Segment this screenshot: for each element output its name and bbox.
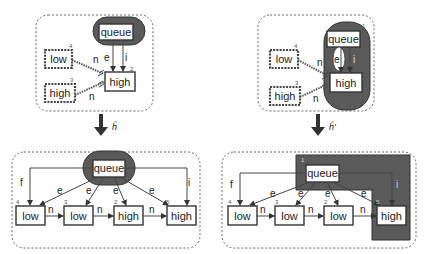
node-label: high — [118, 210, 139, 222]
node-label: low — [234, 210, 251, 222]
node-num: 3 — [275, 199, 279, 205]
edge-n-label: n — [360, 204, 366, 215]
transform-arrow-left: ĥ — [94, 114, 117, 136]
queue-num: 1 — [362, 23, 366, 29]
panel-top-right: queue 1 e i high low 4 high 3 n n — [258, 15, 374, 111]
edge-i-label: i — [396, 179, 398, 190]
node-num: 4 — [16, 199, 20, 205]
panel-bottom-left: queue 1 f i e e e e low 4 low 3 high 2 h… — [12, 151, 200, 248]
node-label: high — [171, 210, 192, 222]
edge-e-label: e — [298, 188, 304, 199]
queue-label: queue — [101, 26, 132, 38]
panel-bottom-right: queue 1 f i e e e e low 4 low 3 low 2 hi… — [222, 152, 416, 248]
node-label: low — [281, 210, 298, 222]
edge-e-4 — [120, 177, 168, 205]
transform-label-left: ĥ — [112, 121, 117, 132]
transform-arrow-right: ĥ' — [311, 114, 336, 136]
high-pattern-num: 3 — [295, 80, 299, 86]
edge-i-label: i — [188, 177, 190, 188]
node-label: low — [22, 210, 39, 222]
arrow-down-icon — [94, 127, 108, 136]
transform-label-right: ĥ' — [329, 121, 336, 132]
edge-f-label: f — [230, 179, 233, 190]
panel-top-left: queue 1 e i high 2 low 4 high 3 n n — [36, 15, 153, 111]
node-num: 2 — [324, 199, 328, 205]
edge-i-label: i — [353, 54, 355, 65]
node-num: 5 — [166, 199, 170, 205]
high-pattern-num: 3 — [70, 77, 74, 83]
edge-e-label: e — [361, 188, 367, 199]
edge-e-label: e — [270, 188, 276, 199]
high-num: 2 — [130, 66, 134, 72]
arrow-shaft — [316, 114, 320, 128]
edge-n2-label: n — [89, 91, 95, 102]
high-pattern-label: high — [275, 90, 296, 102]
edge-e-label: e — [113, 185, 119, 196]
edge-e-label: e — [334, 54, 340, 65]
edge-e-label: e — [86, 185, 92, 196]
queue-label: queue — [328, 33, 359, 45]
queue-label: queue — [94, 162, 125, 174]
edge-e-label: e — [149, 185, 155, 196]
edge-n-label: n — [260, 204, 266, 215]
edge-n-label: n — [48, 204, 54, 215]
edge-n-label: n — [149, 204, 155, 215]
edge-n-low — [72, 60, 104, 74]
diagram-canvas: queue 1 e i high 2 low 4 high 3 n n ĥ — [0, 0, 428, 254]
edge-n-label: n — [308, 204, 314, 215]
high-pattern-label: high — [50, 87, 71, 99]
arrow-shaft — [99, 114, 103, 128]
low-pattern-label: low — [50, 53, 67, 65]
edge-e-label: e — [104, 52, 110, 63]
edge-e-label: e — [325, 188, 331, 199]
edge-i-label: i — [125, 52, 127, 63]
node-label: high — [381, 210, 402, 222]
node-num: 3 — [64, 199, 68, 205]
high-label: high — [336, 77, 357, 89]
arrow-down-icon — [311, 127, 325, 136]
node-num: 4 — [228, 199, 232, 205]
high-label: high — [110, 76, 131, 88]
node-num: 2 — [114, 199, 118, 205]
node-label: low — [70, 210, 87, 222]
edge-e-label: e — [57, 185, 63, 196]
low-pattern-num: 4 — [294, 43, 298, 49]
edge-n1-label: n — [317, 57, 323, 68]
edge-n1-label: n — [93, 54, 99, 65]
edge-n-label: n — [97, 204, 103, 215]
edge-f-label: f — [20, 177, 23, 188]
edge-n2-label: n — [313, 93, 319, 104]
low-pattern-num: 4 — [69, 43, 73, 49]
node-label: low — [330, 210, 347, 222]
low-pattern-label: low — [276, 53, 293, 65]
queue-label: queue — [307, 167, 338, 179]
